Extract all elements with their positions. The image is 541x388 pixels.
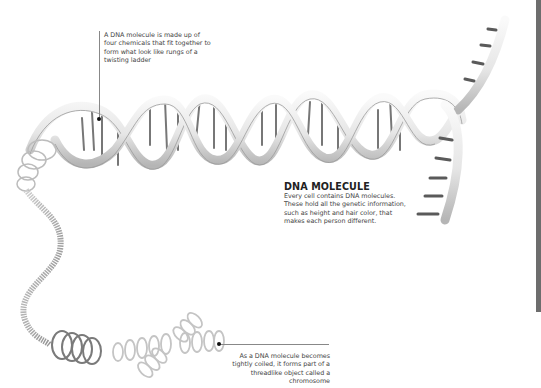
callout-chromosome-text: As a DNA molecule becomes tightly coiled…	[218, 352, 330, 386]
callout-leader-rungs	[99, 31, 100, 118]
page-edge-bar	[536, 0, 541, 312]
callout-dot-rungs	[97, 117, 101, 121]
callout-rungs-text: A DNA molecule is made up of four chemic…	[104, 31, 214, 65]
figure-description: Every cell contains DNA molecules. These…	[284, 192, 409, 226]
supercoils	[52, 331, 101, 364]
figure-title: DNA MOLECULE	[284, 181, 370, 192]
chromatin-fiber	[23, 190, 60, 345]
dna-illustration	[0, 0, 541, 388]
callout-leader-chromosome	[219, 344, 329, 345]
callout-dot-chromosome	[217, 342, 221, 346]
chromosome	[113, 310, 224, 379]
coil-left	[17, 140, 56, 191]
